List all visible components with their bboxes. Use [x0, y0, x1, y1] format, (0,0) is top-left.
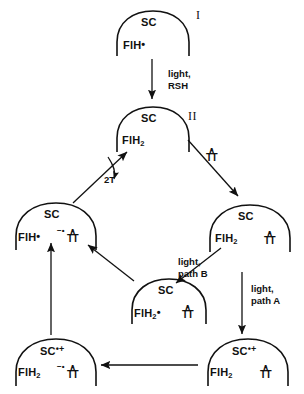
- complex-I: SC FlH•: [113, 8, 193, 56]
- complex-bottom-left-flavin-label: FlH2: [18, 367, 41, 380]
- complex-right: SC FlH2 ∧ TT: [206, 202, 294, 252]
- complex-bottom-left-flavin-text: FlH: [18, 366, 36, 378]
- complex-right-flavin-text: FlH: [215, 232, 233, 244]
- label-light-path-a: light, path A: [251, 283, 280, 307]
- complex-left-dimer: ∧ TT: [67, 227, 78, 244]
- complex-left-sc-label: SC: [44, 209, 60, 220]
- complex-center: SC FlH2• ∧ TT: [128, 276, 210, 324]
- complex-II-flavin-subscript: 2: [140, 139, 144, 148]
- complex-center-flavin-text: FlH: [134, 307, 152, 319]
- complex-left-flavin-label: FlH•: [18, 231, 40, 243]
- label-light-rsh-line2: RSH: [168, 80, 191, 92]
- dimer-tt-label: TT: [67, 234, 78, 244]
- complex-bottom-right-flavin-subscript: 2: [228, 371, 232, 380]
- dimer-tt-label: TT: [67, 370, 78, 380]
- label-path-a-line1: light,: [251, 283, 280, 295]
- dimer-tt-label: TT: [182, 310, 193, 320]
- complex-right-flavin-subscript: 2: [233, 237, 237, 246]
- complex-bottom-left-sc-text: SC: [40, 345, 56, 357]
- label-2t: 2T: [104, 175, 115, 185]
- complex-bottom-right-flavin-text: FlH: [210, 366, 228, 378]
- label-roman-II: II: [188, 110, 197, 122]
- complex-left-dimer-charge: −•: [57, 227, 64, 235]
- label-path-a-line2: path A: [251, 295, 280, 307]
- label-light-rsh-line1: light,: [168, 68, 191, 80]
- complex-bottom-left-dimer: ∧ TT: [67, 363, 78, 380]
- dimer-tt-label: TT: [206, 153, 217, 163]
- complex-bottom-left-flavin-subscript: 2: [36, 371, 40, 380]
- complex-II-flavin-label: FlH2: [122, 135, 145, 148]
- complex-I-flavin-text: FlH: [123, 39, 141, 51]
- complex-center-flavin-radical-dot: •: [157, 306, 161, 318]
- complex-right-dimer: ∧ TT: [264, 229, 275, 246]
- complex-bottom-right-sc-text: SC: [232, 345, 248, 357]
- label-light-rsh: light, RSH: [168, 68, 191, 92]
- complex-bottom-right: SC•+ FlH2 ∧ TT: [204, 336, 292, 386]
- complex-I-flavin-radical-dot: •: [141, 38, 145, 50]
- complex-center-sc-label: SC: [158, 285, 174, 296]
- reaction-scheme-figure: SC FlH• I light, RSH SC FlH2 II 2T ∧ TT …: [0, 0, 304, 394]
- dimer-tt-label: TT: [260, 370, 271, 380]
- complex-I-flavin-label: FlH•: [123, 39, 145, 51]
- complex-left-flavin-radical-dot: •: [36, 230, 40, 242]
- complex-bottom-right-sc-label: SC•+: [232, 345, 257, 357]
- complex-I-sc-label: SC: [141, 17, 157, 28]
- complex-bottom-right-dimer: ∧ TT: [260, 363, 271, 380]
- complex-bottom-left: SC•+ FlH2 −• ∧ TT: [12, 336, 100, 386]
- complex-bottom-left-dimer-charge: −•: [57, 363, 64, 371]
- complex-bottom-left-sc-charge: •+: [56, 344, 65, 354]
- complex-right-sc-label: SC: [238, 211, 254, 222]
- complex-bottom-right-flavin-label: FlH2: [210, 367, 233, 380]
- complex-left-flavin-text: FlH: [18, 231, 36, 243]
- dimer-symbol-ii-to-right: ∧ TT: [206, 146, 217, 163]
- arrow-left-to-ii: [73, 152, 127, 203]
- complex-bottom-left-sc-label: SC•+: [40, 345, 65, 357]
- complex-right-flavin-label: FlH2: [215, 233, 238, 246]
- complex-center-dimer: ∧ TT: [182, 303, 193, 320]
- complex-center-flavin-label: FlH2•: [134, 307, 161, 321]
- complex-left: SC FlH• −• ∧ TT: [12, 200, 100, 250]
- label-path-b-line1: light,: [178, 256, 208, 268]
- complex-II-sc-label: SC: [141, 113, 157, 124]
- arrow-layer: [0, 0, 304, 394]
- complex-bottom-right-sc-charge: •+: [248, 344, 257, 354]
- label-roman-I: I: [196, 9, 201, 21]
- dimer-tt-label: TT: [264, 236, 275, 246]
- complex-II: SC FlH2: [113, 104, 193, 152]
- complex-II-flavin-text: FlH: [122, 134, 140, 146]
